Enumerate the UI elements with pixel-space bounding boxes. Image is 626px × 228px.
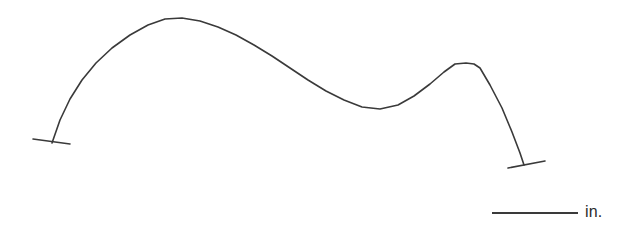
figure-background [0,0,626,228]
profile-diagram-figure: in. [0,0,626,228]
profile-curve-canvas [0,0,626,228]
scale-bar-unit-label: in. [585,203,603,221]
